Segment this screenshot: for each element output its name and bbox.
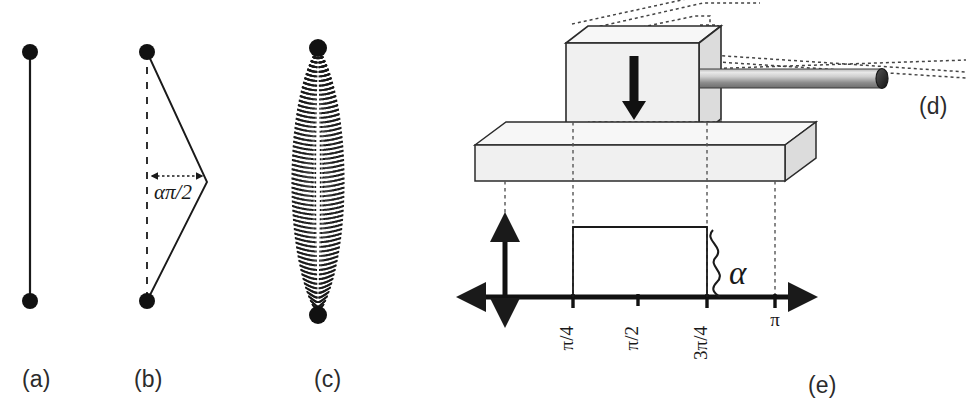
tick-label-pi-over-2: π/2 xyxy=(621,326,642,350)
panel-b-endpoint-bottom xyxy=(139,293,155,309)
figure-root: απ/2 xyxy=(0,0,967,417)
panel-d-rod-end-cap xyxy=(876,69,888,89)
panel-a-endpoint-top xyxy=(22,44,38,60)
panel-c-arc-family xyxy=(292,48,344,315)
tick-label-three-pi-over-4: 3π/4 xyxy=(690,326,711,360)
caption-a: (a) xyxy=(22,366,51,393)
panel-e-alpha-brace xyxy=(710,230,720,297)
panel-e-slab-front-face xyxy=(475,145,785,181)
caption-b: (b) xyxy=(134,366,163,393)
figure-canvas: απ/2 xyxy=(0,0,967,417)
panel-a-endpoint-bottom xyxy=(22,293,38,309)
caption-c: (c) xyxy=(314,366,341,393)
panel-b-group: απ/2 xyxy=(139,44,207,309)
panel-d-group xyxy=(566,0,966,136)
panel-b-dimension-label: απ/2 xyxy=(154,180,192,204)
panel-d-block-top-face xyxy=(566,26,721,43)
panel-e-group: α π/4 π/2 3π/4 π xyxy=(462,119,816,360)
panel-e-pulse-rectangle xyxy=(573,227,707,297)
panel-c-endpoint-top xyxy=(309,39,327,57)
tick-label-pi: π xyxy=(770,309,780,330)
panel-e-slab-top-face xyxy=(475,122,816,145)
caption-d: (d) xyxy=(919,93,948,120)
panel-a-group xyxy=(22,44,38,309)
panel-b-endpoint-top xyxy=(139,44,155,60)
tick-label-pi-over-4: π/4 xyxy=(556,326,577,351)
panel-e-alpha-label: α xyxy=(729,255,747,291)
panel-c-group xyxy=(292,39,344,324)
panel-c-endpoint-bottom xyxy=(309,306,327,324)
panel-d-rod-body xyxy=(700,69,882,88)
caption-e: (e) xyxy=(808,372,837,399)
